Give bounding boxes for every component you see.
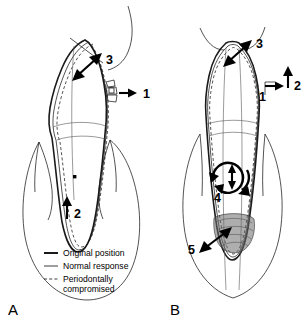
panel-b-letter: B <box>170 301 180 318</box>
panel-b-label-5: 5 <box>188 243 195 257</box>
panel-b-label-1: 1 <box>259 90 266 104</box>
legend-label-compromised: compromised <box>63 284 115 294</box>
panel-b-label-4: 4 <box>214 191 221 205</box>
panel-a-centre-of-rotation-dot <box>73 175 76 178</box>
panel-b-label-3: 3 <box>256 37 263 51</box>
panel-a-letter: A <box>8 301 18 318</box>
panel-a-label-3: 3 <box>106 53 113 67</box>
legend-label-normal-response: Normal response <box>63 261 129 271</box>
legend-label-original-position: Original position <box>63 248 125 258</box>
panel-a-label-2: 2 <box>74 207 81 221</box>
panel-b-label-2: 2 <box>294 79 301 93</box>
panel-a-label-1: 1 <box>143 87 150 101</box>
tooth-response-figure: 1 2 3 Original position Normal response … <box>0 0 307 323</box>
legend-label-periodontally: Periodontally <box>63 274 113 284</box>
